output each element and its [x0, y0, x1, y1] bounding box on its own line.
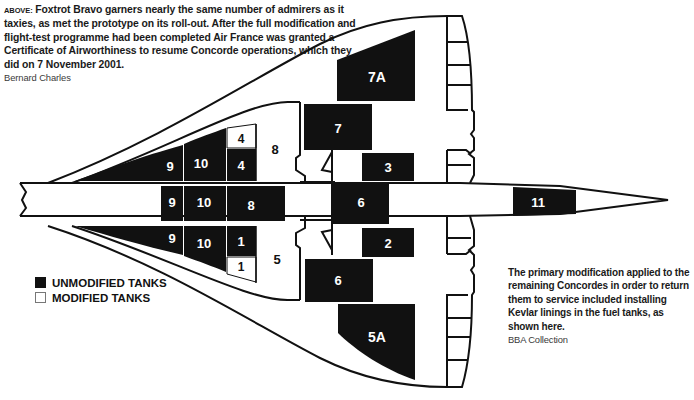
tank-label-6-lower: 6	[334, 273, 341, 288]
tank-label-9-lower: 9	[168, 231, 175, 246]
tank-label-4-upper-modified: 4	[238, 132, 245, 146]
tank-label-7: 7	[334, 121, 341, 136]
tank-label-5a: 5A	[368, 329, 386, 345]
concorde-fuel-tank-diagram: 7A 7 3 6 2 6 5A 11 9 10 4 4 8 9	[0, 0, 694, 400]
tank-label-8-upper-modified: 8	[271, 142, 278, 157]
tanks: 7A 7 3 6 2 6 5A 11 9 10 4 4 8 9	[75, 30, 576, 380]
tank-label-10-lower: 10	[197, 236, 211, 251]
tank-label-9-upper: 9	[166, 159, 173, 174]
tank-label-9-mid: 9	[168, 195, 175, 210]
tank-label-1-lower-modified: 1	[238, 260, 245, 274]
tank-label-5-modified: 5	[273, 252, 280, 267]
tank-8-mid	[227, 186, 285, 221]
tank-label-6-center: 6	[357, 195, 364, 210]
tank-label-7a: 7A	[368, 69, 386, 85]
tank-label-10-upper: 10	[194, 156, 208, 171]
tank-label-10-mid: 10	[197, 195, 211, 210]
tank-10-upper	[184, 128, 226, 181]
tank-label-3: 3	[384, 160, 391, 175]
tank-label-11: 11	[531, 195, 545, 210]
tank-7a	[337, 30, 415, 101]
tank-label-1-lower: 1	[237, 234, 244, 249]
tank-label-4-upper: 4	[237, 158, 245, 173]
tank-label-2: 2	[384, 236, 391, 251]
tank-label-8-mid: 8	[247, 198, 254, 213]
